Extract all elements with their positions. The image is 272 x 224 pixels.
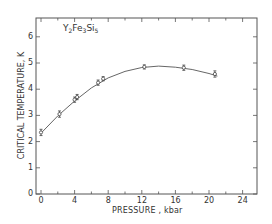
x-tick-label: 12: [137, 196, 147, 205]
chart-title: Y2Fe3Si5: [63, 23, 98, 34]
y-tick-label: 5: [28, 58, 33, 67]
data-point: [143, 65, 146, 69]
data-point: [102, 77, 105, 81]
x-tick-label: 24: [238, 196, 248, 205]
fit-curve: [41, 66, 217, 133]
data-point: [213, 71, 216, 77]
x-axis-label: PRESSURE , kbar: [112, 206, 183, 215]
y-tick-label: 3: [28, 110, 33, 119]
data-points: [39, 65, 216, 136]
data-point: [182, 65, 185, 70]
x-tick-label: 0: [39, 196, 44, 205]
x-tick-label: 20: [204, 196, 214, 205]
y-tick-label: 1: [28, 163, 33, 172]
data-point: [39, 129, 42, 135]
y-tick-label: 2: [28, 137, 33, 146]
y-axis-label: CRITICAL TEMPERATURE, K: [17, 51, 26, 161]
x-tick-label: 8: [106, 196, 111, 205]
x-tick-label: 16: [170, 196, 180, 205]
y-tick-label: 4: [28, 84, 33, 93]
y-tick-label: 6: [28, 32, 33, 41]
chart-canvas: [0, 0, 272, 224]
x-tick-label: 4: [72, 196, 77, 205]
data-point: [58, 111, 61, 117]
y-tick-label: 0: [28, 189, 33, 198]
